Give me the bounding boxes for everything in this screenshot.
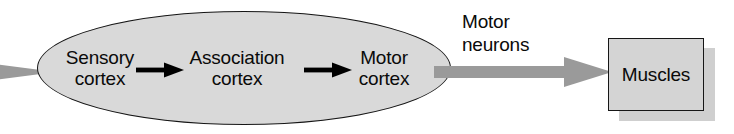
node-sensory-cortex: Sensory cortex	[52, 47, 148, 89]
node-association-cortex-line2: cortex	[176, 68, 298, 89]
node-sensory-cortex-line2: cortex	[52, 68, 148, 89]
node-sensory-cortex-line1: Sensory	[52, 47, 148, 68]
muscles-box-label: Muscles	[608, 64, 704, 85]
motor-neurons-caption: Motor neurons	[462, 10, 580, 56]
node-motor-cortex: Motor cortex	[343, 47, 425, 89]
motor-neurons-arrow	[434, 56, 612, 88]
node-association-cortex: Association cortex	[176, 47, 298, 89]
motor-neurons-caption-line1: Motor	[462, 10, 580, 33]
motor-neurons-caption-line2: neurons	[462, 33, 580, 56]
node-motor-cortex-line1: Motor	[343, 47, 425, 68]
node-motor-cortex-line2: cortex	[343, 68, 425, 89]
association-to-motor-arrow	[304, 62, 352, 78]
node-association-cortex-line1: Association	[176, 47, 298, 68]
sensory-to-association-arrow	[136, 62, 184, 78]
pathway-diagram: Sensory cortex Association cortex Motor …	[0, 0, 734, 134]
